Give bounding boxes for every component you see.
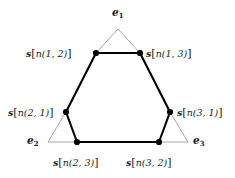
node-marker-n31 bbox=[167, 109, 173, 115]
node-label-n13: s[n(1, 3)] bbox=[146, 48, 192, 59]
node-marker-n12 bbox=[93, 50, 99, 56]
node-marker-n32 bbox=[156, 139, 162, 145]
node-label-n21: s[n(2, 1)] bbox=[8, 107, 54, 118]
figure-container: e1 e2 e3 s[n(1, 2)] s[n(1, 3)] s[n(2, 1)… bbox=[0, 0, 235, 178]
vertex-label-e1: e1 bbox=[112, 7, 124, 18]
vertex-label-e3: e3 bbox=[193, 135, 205, 146]
vertex-label-e2: e2 bbox=[27, 135, 39, 146]
node-marker-n13 bbox=[137, 50, 143, 56]
edge-n21-to-n12 bbox=[66, 53, 96, 112]
outer-triangle-edges bbox=[48, 29, 188, 142]
edge-e1-to-n12 bbox=[96, 29, 118, 53]
edge-e1-to-n13 bbox=[118, 29, 140, 53]
triangle-hexagon-diagram bbox=[0, 0, 235, 178]
node-marker-n23 bbox=[74, 139, 80, 145]
edge-n31-to-n32 bbox=[159, 112, 170, 142]
node-markers bbox=[63, 50, 173, 145]
edge-n13-to-n31 bbox=[140, 53, 170, 112]
inner-hexagon-edges bbox=[66, 53, 170, 142]
edge-n23-to-n21 bbox=[66, 112, 77, 142]
node-label-n12: s[n(1, 2)] bbox=[26, 48, 72, 59]
node-label-n23: s[n(2, 3)] bbox=[53, 157, 99, 168]
node-label-n31: s[n(3, 1)] bbox=[177, 107, 223, 118]
node-label-n32: s[n(3, 2)] bbox=[126, 157, 172, 168]
node-marker-n21 bbox=[63, 109, 69, 115]
